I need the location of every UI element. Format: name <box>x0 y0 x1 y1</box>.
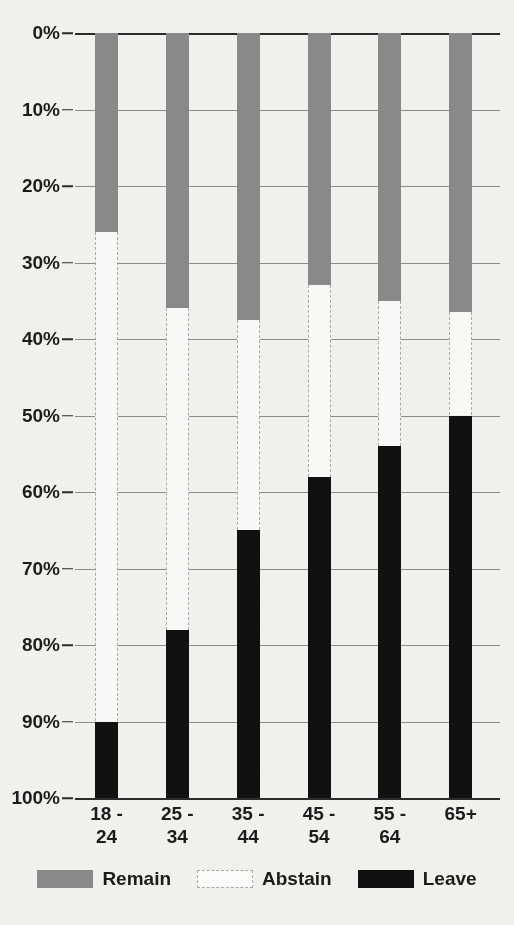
bar-segment-abstain[interactable] <box>95 232 118 722</box>
bar-segment-remain[interactable] <box>95 33 118 232</box>
bar-segment-abstain[interactable] <box>308 285 331 476</box>
bar-segment-leave[interactable] <box>237 530 260 798</box>
y-axis-tick-mark <box>62 797 73 799</box>
x-axis-category-label: 25 - 34 <box>137 802 217 848</box>
gridline <box>75 263 500 264</box>
y-axis-tick-label: 10% <box>0 99 60 121</box>
leave-swatch <box>358 870 414 888</box>
y-axis-tick-mark <box>62 644 73 646</box>
legend-label: Abstain <box>262 868 332 890</box>
x-axis-category-label: 55 - 64 <box>350 802 430 848</box>
y-axis-tick-label: 80% <box>0 634 60 656</box>
bar-segment-leave[interactable] <box>166 630 189 798</box>
stacked-bar-chart: 0%10%20%30%40%50%60%70%80%90%100% 18 - 2… <box>0 0 514 925</box>
axis-line-top <box>75 33 500 35</box>
bar-segment-leave[interactable] <box>95 722 118 799</box>
legend-item-remain[interactable]: Remain <box>37 868 171 890</box>
y-axis-tick-label: 30% <box>0 252 60 274</box>
gridline <box>75 339 500 340</box>
gridline <box>75 645 500 646</box>
axis-line-bottom <box>75 798 500 800</box>
y-axis-tick-mark <box>62 568 73 570</box>
y-axis-tick-mark <box>62 721 73 723</box>
bar-segment-abstain[interactable] <box>378 301 401 446</box>
y-axis-tick-mark <box>62 109 73 111</box>
bar-group[interactable] <box>378 33 401 798</box>
y-axis-tick-label: 70% <box>0 558 60 580</box>
y-axis-tick-mark <box>62 415 73 417</box>
legend-label: Leave <box>423 868 477 890</box>
remain-swatch <box>37 870 93 888</box>
bar-segment-abstain[interactable] <box>449 312 472 415</box>
y-axis-tick-label: 50% <box>0 405 60 427</box>
bar-segment-leave[interactable] <box>308 477 331 798</box>
x-axis-category-label: 45 - 54 <box>279 802 359 848</box>
y-axis-tick-mark <box>62 185 73 187</box>
bar-group[interactable] <box>449 33 472 798</box>
x-axis-category-label: 18 - 24 <box>67 802 147 848</box>
y-axis-tick-mark <box>62 32 73 34</box>
y-axis-tick-mark <box>62 262 73 264</box>
y-axis-tick-label: 90% <box>0 711 60 733</box>
y-axis-tick-label: 0% <box>0 22 60 44</box>
y-axis-tick-mark <box>62 491 73 493</box>
gridline <box>75 416 500 417</box>
bar-segment-remain[interactable] <box>449 33 472 312</box>
y-axis-tick-label: 40% <box>0 328 60 350</box>
bar-segment-abstain[interactable] <box>237 320 260 530</box>
legend-item-abstain[interactable]: Abstain <box>197 868 332 890</box>
bar-segment-remain[interactable] <box>166 33 189 308</box>
gridline <box>75 186 500 187</box>
y-axis-tick-label: 20% <box>0 175 60 197</box>
bar-segment-remain[interactable] <box>308 33 331 285</box>
abstain-swatch <box>197 870 253 888</box>
y-axis-tick-mark <box>62 338 73 340</box>
legend-item-leave[interactable]: Leave <box>358 868 477 890</box>
bar-segment-remain[interactable] <box>237 33 260 320</box>
chart-legend: RemainAbstainLeave <box>0 868 514 890</box>
gridline <box>75 492 500 493</box>
bar-segment-abstain[interactable] <box>166 308 189 629</box>
legend-label: Remain <box>102 868 171 890</box>
bar-group[interactable] <box>308 33 331 798</box>
bar-segment-leave[interactable] <box>378 446 401 798</box>
bar-group[interactable] <box>237 33 260 798</box>
bar-group[interactable] <box>166 33 189 798</box>
x-axis-category-label: 65+ <box>421 802 501 825</box>
plot-area <box>75 33 500 798</box>
gridline <box>75 722 500 723</box>
y-axis-tick-label: 100% <box>0 787 60 809</box>
bar-segment-leave[interactable] <box>449 416 472 799</box>
bar-group[interactable] <box>95 33 118 798</box>
gridline <box>75 569 500 570</box>
gridline <box>75 110 500 111</box>
x-axis-category-label: 35 - 44 <box>208 802 288 848</box>
bar-segment-remain[interactable] <box>378 33 401 301</box>
y-axis-tick-label: 60% <box>0 481 60 503</box>
